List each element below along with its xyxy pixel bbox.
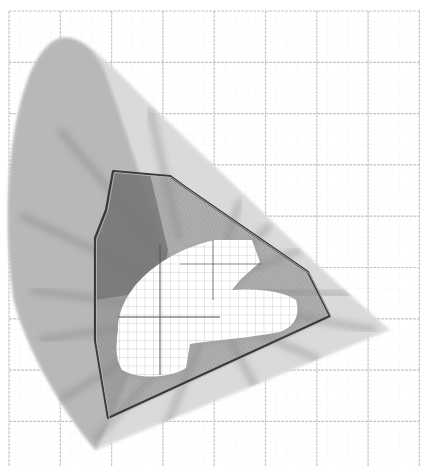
diagram-canvas bbox=[0, 0, 427, 468]
chromaticity-diagram bbox=[0, 0, 427, 468]
